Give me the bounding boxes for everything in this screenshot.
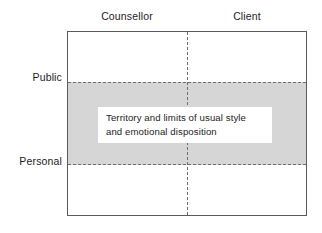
callout-text: Territory and limits of usual style and …: [106, 111, 264, 139]
column-header-client: Client: [187, 10, 307, 23]
column-header-counsellor: Counsellor: [67, 10, 187, 23]
territory-limits-diagram: Counsellor Client Public Personal Territ…: [0, 0, 322, 233]
diagram-frame: Territory and limits of usual style and …: [67, 31, 307, 216]
callout-box: Territory and limits of usual style and …: [98, 107, 272, 143]
row-label-personal: Personal: [0, 155, 62, 168]
row-label-public: Public: [0, 71, 62, 84]
